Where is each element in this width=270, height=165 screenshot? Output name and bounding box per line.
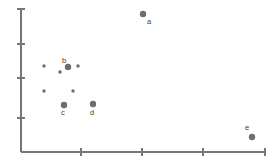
point-label-e: e	[245, 124, 249, 132]
data-point-minor-4	[71, 89, 74, 92]
data-point-minor-0	[42, 64, 45, 67]
scatter-plot: abcde	[0, 0, 270, 165]
data-points-group	[42, 11, 255, 140]
point-label-b: b	[62, 57, 66, 65]
data-point-minor-1	[76, 64, 79, 67]
data-point-e	[249, 134, 255, 140]
ticks-group	[17, 9, 265, 156]
point-label-d: d	[90, 109, 94, 117]
point-label-c: c	[61, 109, 65, 117]
data-point-minor-3	[42, 89, 45, 92]
data-point-d	[90, 101, 96, 107]
data-point-minor-2	[58, 70, 61, 73]
plot-canvas	[0, 0, 270, 165]
point-label-a: a	[147, 18, 151, 26]
data-point-a	[140, 11, 146, 17]
axes-group	[21, 9, 266, 152]
